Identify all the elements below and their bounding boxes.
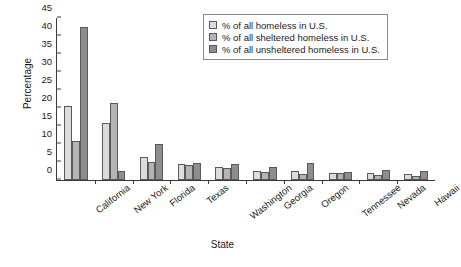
bar — [223, 168, 231, 180]
bar — [299, 174, 307, 180]
bar — [178, 164, 186, 180]
bar-group — [102, 18, 125, 180]
y-axis-tick-mark — [57, 71, 61, 72]
y-axis-tick-label: 10 — [41, 128, 57, 139]
y-axis-tick-mark — [57, 179, 61, 180]
y-axis-tick-label: 25 — [41, 74, 57, 85]
y-axis-tick-mark — [57, 161, 61, 162]
legend-label: % of all unsheltered homeless in U.S. — [222, 44, 380, 55]
x-axis-tick-label: New York — [132, 182, 170, 215]
bar-group — [404, 18, 427, 180]
bar — [404, 174, 412, 180]
bar-group — [140, 18, 163, 180]
x-axis-tick-label: Hawaii — [432, 182, 461, 208]
bar — [231, 164, 239, 180]
bar — [344, 172, 352, 180]
y-axis-tick-mark — [57, 107, 61, 108]
y-axis-tick-label: 45 — [41, 2, 57, 13]
y-axis-title: Percentage — [22, 24, 33, 144]
x-axis-tick-label: Texas — [204, 182, 230, 206]
y-axis-tick-mark — [57, 89, 61, 90]
bar — [102, 123, 110, 180]
bar — [291, 171, 299, 180]
chart-legend: % of all homeless in U.S.% of all shelte… — [203, 14, 388, 60]
y-axis-tick-label: 30 — [41, 56, 57, 67]
bar-group — [64, 18, 87, 180]
x-axis-title: State — [0, 239, 445, 250]
bar — [367, 173, 375, 180]
legend-item: % of all homeless in U.S. — [209, 19, 380, 31]
bar-group — [178, 18, 201, 180]
bar — [261, 172, 269, 180]
bar — [185, 165, 193, 180]
bar — [412, 176, 420, 180]
bar — [110, 103, 118, 180]
y-axis-tick-mark — [57, 125, 61, 126]
bar — [72, 141, 80, 180]
bar — [382, 170, 390, 180]
bar — [253, 171, 261, 180]
legend-swatch-icon — [209, 33, 217, 41]
y-axis-tick-mark — [57, 17, 61, 18]
legend-item: % of all sheltered homeless in U.S. — [209, 31, 380, 43]
bar — [337, 173, 345, 180]
bar — [215, 167, 223, 180]
x-axis-tick-label: Oregon — [319, 182, 351, 210]
bar — [118, 171, 126, 180]
y-axis-tick-mark — [57, 35, 61, 36]
y-axis-tick-label: 20 — [41, 92, 57, 103]
x-axis-tick-labels: CaliforniaNew YorkFloridaTexasWashington… — [56, 182, 435, 238]
legend-label: % of all sheltered homeless in U.S. — [222, 32, 369, 43]
y-axis-tick-label: 0 — [47, 164, 57, 175]
bar — [80, 27, 88, 180]
y-axis-tick-label: 35 — [41, 38, 57, 49]
bar — [420, 171, 428, 180]
y-axis-tick-mark — [57, 143, 61, 144]
x-axis-tick-label: California — [94, 182, 132, 215]
legend-item: % of all unsheltered homeless in U.S. — [209, 43, 380, 55]
y-axis-tick-label: 5 — [47, 146, 57, 157]
bar — [193, 163, 201, 180]
legend-label: % of all homeless in U.S. — [222, 20, 328, 31]
legend-swatch-icon — [209, 21, 217, 29]
bar — [148, 162, 156, 180]
bar — [140, 157, 148, 180]
bar — [64, 106, 72, 180]
y-axis-tick-label: 15 — [41, 110, 57, 121]
bar — [307, 163, 315, 180]
bar — [374, 175, 382, 180]
bar — [329, 173, 337, 180]
legend-swatch-icon — [209, 45, 217, 53]
x-axis-tick-label: Florida — [167, 182, 197, 209]
y-axis-tick-mark — [57, 53, 61, 54]
y-axis-tick-label: 40 — [41, 20, 57, 31]
bar — [269, 167, 277, 180]
bar — [155, 144, 163, 180]
